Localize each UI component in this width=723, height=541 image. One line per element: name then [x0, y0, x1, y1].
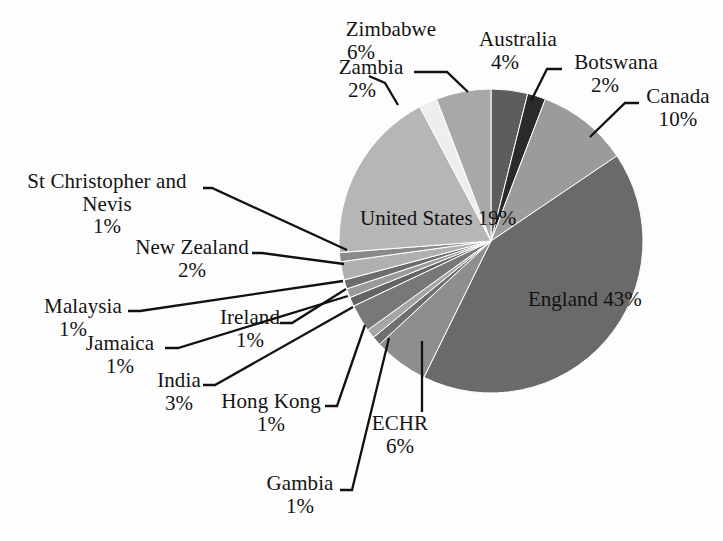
callout-label-india: India [148, 369, 210, 392]
callout-pct-australia: 4% [466, 51, 570, 74]
inner-label-text-england: England [528, 287, 598, 311]
callout-label-stchris: St Christopher and [8, 170, 206, 193]
leader-line-hongkong [325, 325, 365, 406]
callout-pct-hongkong: 1% [212, 413, 330, 436]
callout-pct-newzealand: 2% [128, 259, 256, 282]
callout-pct-india: 3% [148, 392, 210, 415]
callout-label-stchris-2: Nevis [8, 193, 206, 216]
callout-label-malaysia: Malaysia [34, 295, 132, 318]
callout-pct-gambia: 1% [254, 495, 346, 518]
callout-zambia: Zambia 2% [326, 56, 416, 101]
callout-echr: ECHR 6% [364, 412, 436, 457]
callout-label-botswana: Botswana [560, 51, 672, 74]
callout-stchris: St Christopher and Nevis 1% [8, 170, 206, 238]
callout-pct-canada: 10% [636, 108, 720, 131]
inner-label-united-states: United States 19% [360, 207, 500, 230]
callout-hongkong: Hong Kong 1% [212, 390, 330, 435]
callout-label-australia: Australia [466, 28, 570, 51]
callout-label-zambia: Zambia [326, 56, 416, 79]
callout-gambia: Gambia 1% [254, 472, 346, 517]
callout-pct-ireland: 1% [214, 329, 286, 352]
inner-label-pct-united-states: 19% [478, 206, 517, 230]
callout-label-jamaica: Jamaica [72, 332, 168, 355]
callout-canada: Canada 10% [636, 85, 720, 130]
callout-label-ireland: Ireland [214, 306, 286, 329]
inner-label-england: England 43% [528, 288, 624, 311]
callout-label-zimbabwe: Zimbabwe [333, 18, 449, 41]
callout-australia: Australia 4% [466, 28, 570, 73]
leader-line-zimbabwe [414, 72, 468, 92]
callout-pct-zambia: 2% [326, 79, 416, 102]
callout-label-newzealand: New Zealand [128, 236, 256, 259]
callout-pct-echr: 6% [364, 435, 436, 458]
callout-label-echr: ECHR [364, 412, 436, 435]
inner-label-pct-england: 43% [603, 287, 642, 311]
callout-newzealand: New Zealand 2% [128, 236, 256, 281]
callout-label-canada: Canada [636, 85, 720, 108]
callout-label-gambia: Gambia [254, 472, 346, 495]
pie-slices-group [339, 89, 643, 393]
callout-ireland: Ireland 1% [214, 306, 286, 351]
inner-label-text-united-states: United States [360, 206, 473, 230]
callout-label-hongkong: Hong Kong [212, 390, 330, 413]
pie-chart-figure: Zimbabwe 6% Australia 4% Botswana 2% Can… [0, 0, 723, 541]
callout-india: India 3% [148, 369, 210, 414]
leader-line-newzealand [252, 253, 344, 264]
